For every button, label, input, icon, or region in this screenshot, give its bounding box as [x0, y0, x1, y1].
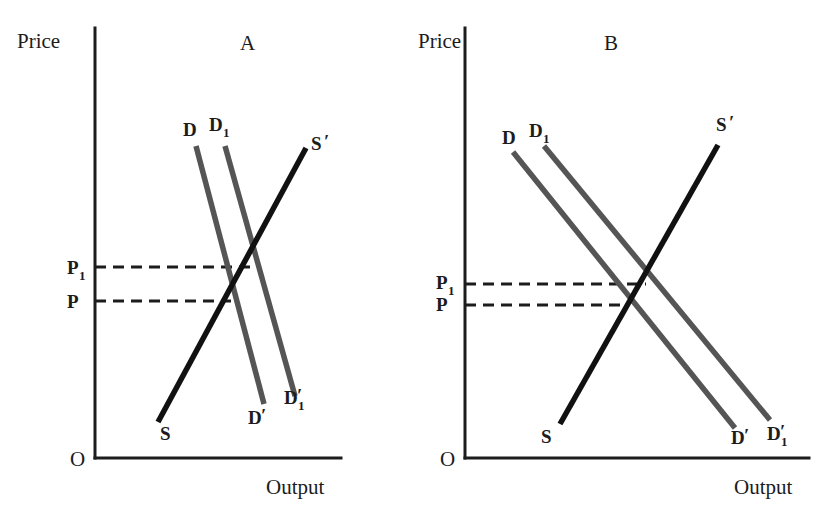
panel-b-demand-label-d1: D 1 [529, 120, 550, 146]
panel-a-demand-curve-d [196, 146, 264, 404]
panel-a: Price A O Output P 1 P D D [0, 0, 410, 511]
panel-b-demand-label-d1-prime: D ′ 1 [767, 421, 788, 449]
panel-b: Price B O Output P 1 P D D [405, 0, 815, 511]
panel-a-p1-label: P 1 [67, 257, 86, 283]
panel-a-demand-label-d1-prime-subscript: 1 [298, 398, 305, 413]
panel-b-demand-curve-d [513, 152, 735, 428]
panel-b-demand-label-d1-subscript: 1 [543, 131, 550, 146]
panel-b-y-axis-label: Price [418, 29, 461, 53]
panel-a-demand-label-d1-prime: D ′ 1 [284, 385, 305, 413]
panel-b-title: B [604, 31, 618, 55]
panel-a-demand-label-d1-text: D [209, 114, 223, 135]
panel-b-demand-label-d-prime-text: D [731, 427, 745, 448]
panel-a-demand-label-d1-prime-text: D [284, 387, 298, 408]
panel-a-title: A [240, 31, 256, 55]
panel-a-supply-label-s: S [160, 423, 171, 444]
panel-a-y-axis-label: Price [17, 29, 60, 53]
panel-a-demand-label-d: D [183, 119, 197, 140]
panel-a-p1-label-subscript: 1 [79, 268, 86, 283]
panel-b-demand-label-d1-prime-text: D [767, 423, 781, 444]
panel-a-origin-label: O [70, 447, 85, 471]
panel-b-supply-label-s: S [541, 426, 552, 447]
panel-b-p1-label-text: P [436, 272, 448, 293]
panel-b-demand-label-d1-text: D [529, 120, 543, 141]
panel-a-p-label: P [67, 291, 79, 312]
panel-b-supply-label-s-prime-text: S [716, 114, 727, 135]
panel-b-supply-label-s-prime-mark: ′ [729, 112, 734, 133]
panel-a-supply-label-s-prime-text: S [311, 133, 322, 154]
panel-a-demand-label-d1-subscript: 1 [223, 125, 230, 140]
panel-b-x-axis-label: Output [734, 475, 793, 499]
panel-b-origin-label: O [440, 447, 455, 471]
panel-b-demand-label-d-prime: D ′ [731, 425, 749, 448]
panel-a-supply-label-s-prime-mark: ′ [324, 131, 329, 152]
panel-b-p-label: P [436, 294, 448, 315]
panel-b-demand-label-d: D [502, 127, 516, 148]
panel-b-demand-label-d1-prime-subscript: 1 [781, 434, 788, 449]
panel-a-x-axis-label: Output [266, 475, 325, 499]
panel-a-demand-label-d-prime-mark: ′ [261, 405, 266, 426]
panel-a-supply-curve [158, 148, 306, 422]
panel-b-supply-label-s-prime: S ′ [716, 112, 734, 135]
panel-a-demand-label-d-prime-text: D [248, 407, 262, 428]
economics-figure: Price A O Output P 1 P D D [0, 0, 815, 511]
panel-a-demand-label-d1: D 1 [209, 114, 230, 140]
panel-a-demand-label-d-prime: D ′ [248, 405, 266, 428]
panel-a-supply-label-s-prime: S ′ [311, 131, 329, 154]
panel-a-p1-label-text: P [67, 257, 79, 278]
panel-b-p1-label-subscript: 1 [448, 283, 455, 298]
panel-b-demand-label-d-prime-mark: ′ [744, 425, 749, 446]
